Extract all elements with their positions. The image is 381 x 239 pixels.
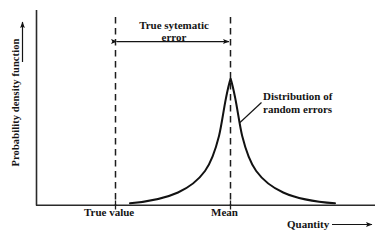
x-axis-label-text: Quantity [287, 219, 329, 231]
distribution-callout-label: Distribution of random errors [263, 90, 375, 115]
y-axis-label: Probability density function [0, 0, 30, 205]
systematic-error-label: True sytematic error [131, 20, 217, 44]
tick-label-mean: Mean [211, 207, 238, 219]
systematic-error-label-line2: error [131, 32, 217, 44]
figure-container: Probability density function True sytema… [0, 0, 381, 239]
distribution-callout-line2: random errors [263, 103, 332, 115]
distribution-callout-line1: Distribution of [263, 90, 332, 102]
y-axis-label-text: Probability density function [10, 38, 21, 166]
systematic-error-label-line1: True sytematic [139, 19, 209, 31]
distribution-callout-leader-line [240, 103, 262, 123]
tick-label-true-value: True value [84, 207, 134, 219]
